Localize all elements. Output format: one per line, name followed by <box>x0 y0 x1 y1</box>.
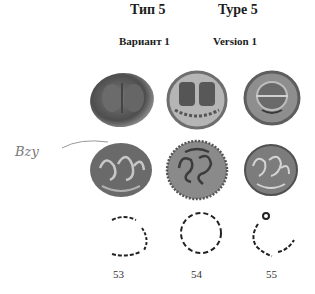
type-heading-en: Type 5 <box>218 2 258 18</box>
coin-image <box>88 68 156 130</box>
coin-image <box>165 138 229 202</box>
coin-number: 54 <box>191 268 202 280</box>
coin-55-obverse <box>242 68 302 128</box>
coin-image <box>242 68 302 128</box>
type-heading-ru: Тип 5 <box>130 2 166 18</box>
coin-image <box>88 140 154 200</box>
coin-image <box>243 142 299 198</box>
coin-53-legend-drawing <box>100 212 152 258</box>
coin-55-legend-drawing <box>248 210 298 258</box>
coin-54-obverse <box>165 68 229 132</box>
inscription-arc <box>248 210 298 258</box>
coin-53-obverse <box>88 68 156 130</box>
coin-55-reverse <box>243 142 299 198</box>
handwritten-margin-note: Bzy <box>15 144 39 159</box>
coin-number: 53 <box>113 268 124 280</box>
inscription-arc <box>100 212 152 258</box>
coin-number: 55 <box>266 268 277 280</box>
version-heading-en: Version 1 <box>213 35 257 47</box>
coin-53-reverse <box>88 140 154 200</box>
inscription-arc <box>176 208 226 258</box>
coin-54-reverse <box>165 138 229 202</box>
coin-image <box>165 68 229 132</box>
version-heading-ru: Вариант 1 <box>119 35 170 47</box>
coin-54-legend-drawing <box>176 208 226 258</box>
